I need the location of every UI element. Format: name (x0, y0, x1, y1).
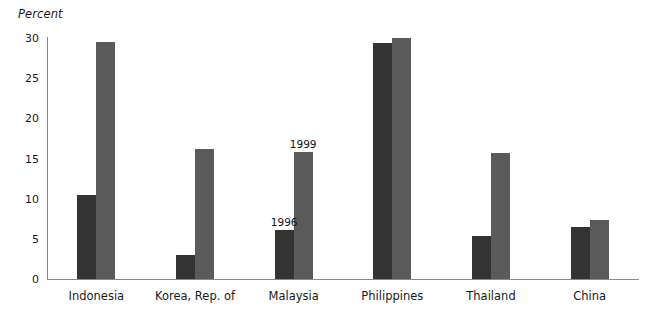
bar-group (472, 38, 510, 279)
y-tick-label: 5 (32, 232, 39, 245)
bar-annotation: 1999 (290, 138, 317, 150)
x-category-label: Malaysia (269, 289, 319, 303)
y-tick-label: 30 (25, 32, 39, 45)
bar-group (176, 38, 214, 279)
bar-korea-rep-of-1996 (176, 255, 195, 279)
x-category-label: Philippines (361, 289, 423, 303)
plot-area (47, 38, 639, 279)
y-tick-label: 25 (25, 72, 39, 85)
bar-chart: Percent 051015202530 IndonesiaKorea, Rep… (0, 0, 646, 323)
bar-group (275, 38, 313, 279)
x-category-label: Korea, Rep. of (155, 289, 235, 303)
bar-indonesia-1996 (77, 195, 96, 279)
x-category-label: Thailand (466, 289, 515, 303)
bar-korea-rep-of-1999 (195, 149, 214, 279)
x-category-label: Indonesia (69, 289, 125, 303)
bar-malaysia-1996 (275, 230, 294, 279)
bar-china-1996 (571, 227, 590, 279)
bar-thailand-1999 (491, 153, 510, 279)
bar-philippines-1996 (373, 43, 392, 279)
bar-thailand-1996 (472, 236, 491, 279)
bar-annotation: 1996 (271, 216, 298, 228)
x-axis-line (47, 279, 639, 280)
bar-group (373, 38, 411, 279)
y-tick-label: 15 (25, 152, 39, 165)
bar-group (77, 38, 115, 279)
y-axis-tick-labels: 051015202530 (0, 0, 39, 323)
y-tick-label: 0 (32, 273, 39, 286)
bar-group (571, 38, 609, 279)
bar-philippines-1999 (392, 38, 411, 279)
bar-indonesia-1999 (96, 42, 115, 279)
y-tick-label: 10 (25, 192, 39, 205)
y-tick-label: 20 (25, 112, 39, 125)
bar-china-1999 (590, 220, 609, 279)
x-category-label: China (573, 289, 606, 303)
